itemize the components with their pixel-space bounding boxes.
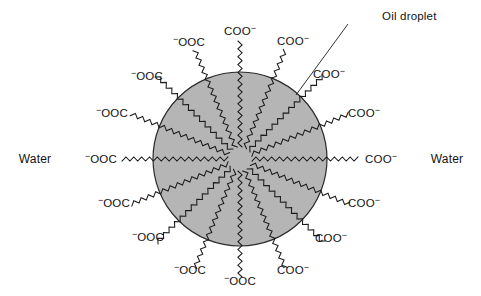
carboxylate-head-label: COO− (313, 67, 345, 80)
head-group-text: COO (277, 264, 304, 276)
head-group-text: OOC (101, 107, 128, 119)
charge-sign: − (392, 151, 397, 161)
charge-sign: − (375, 195, 380, 205)
carboxylate-head-label: −OOC (96, 106, 128, 119)
water-label-left: Water (19, 153, 52, 165)
carboxylate-head-label: COO− (277, 263, 309, 276)
charge-sign: − (304, 262, 309, 272)
charge-sign: − (375, 105, 380, 115)
carboxylate-head-label: COO− (365, 152, 397, 165)
head-group-text: COO (277, 35, 304, 47)
charge-sign: − (340, 66, 345, 76)
head-group-text: COO (348, 197, 375, 209)
head-group-text: COO (313, 68, 340, 80)
head-group-text: OOC (178, 36, 205, 48)
head-group-text: COO (365, 153, 392, 165)
carboxylate-head-label: COO− (224, 24, 256, 37)
carboxylate-head-label: −OOC (224, 274, 256, 287)
carboxylate-head-label: COO− (315, 231, 347, 244)
head-group-text: OOC (103, 197, 130, 209)
carboxylate-head-label: COO− (277, 34, 309, 47)
carboxylate-head-label: −OOC (132, 230, 164, 243)
oil-droplet-callout-label: Oil droplet (382, 11, 437, 23)
head-group-text: OOC (90, 153, 117, 165)
charge-sign: − (251, 23, 256, 33)
head-group-text: COO (224, 25, 251, 37)
carboxylate-head-label: −OOC (85, 152, 117, 165)
carboxylate-head-label: −OOC (98, 196, 130, 209)
head-group-text: OOC (229, 275, 256, 287)
carboxylate-head-label: COO− (348, 106, 380, 119)
diagram-canvas (0, 0, 481, 296)
head-group-text: OOC (137, 231, 164, 243)
charge-sign: − (342, 230, 347, 240)
carboxylate-head-label: −OOC (174, 263, 206, 276)
carboxylate-head-label: COO− (348, 196, 380, 209)
head-group-text: COO (315, 232, 342, 244)
carboxylate-head-label: −OOC (131, 69, 163, 82)
water-label-right: Water (431, 153, 464, 165)
charge-sign: − (304, 33, 309, 43)
carboxylate-head-label: −OOC (173, 35, 205, 48)
head-group-text: COO (348, 107, 375, 119)
head-group-text: OOC (179, 264, 206, 276)
oil-droplet-diagram: COO−COO−COO−COO−COO−COO−COO−COO−−OOC−OOC… (0, 0, 481, 296)
head-group-text: OOC (136, 70, 163, 82)
